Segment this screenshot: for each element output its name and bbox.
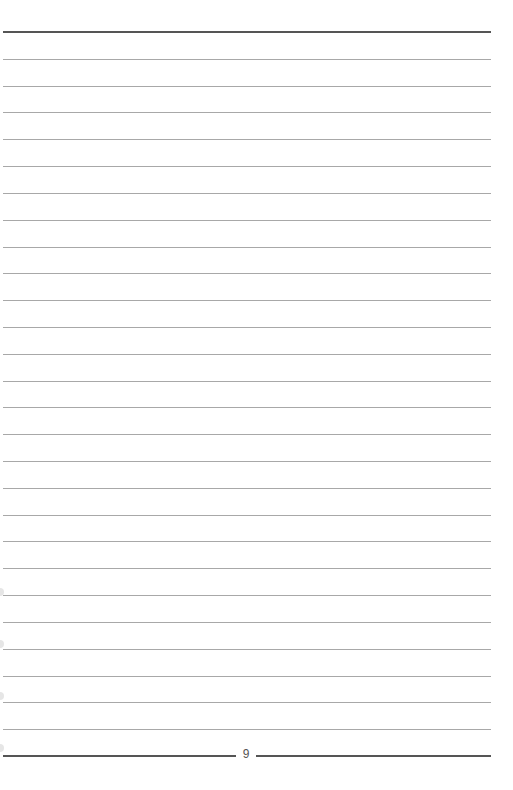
ruled-line — [3, 300, 491, 301]
ruled-line — [3, 622, 491, 623]
ruled-line — [3, 59, 491, 60]
ruled-line — [3, 193, 491, 194]
ruled-line — [3, 273, 491, 274]
ruled-line — [3, 488, 491, 489]
ruled-line — [3, 381, 491, 382]
ruled-line — [3, 112, 491, 113]
ruled-line — [3, 139, 491, 140]
ruled-line — [3, 166, 491, 167]
ruled-line — [3, 676, 491, 677]
ruled-line — [3, 86, 491, 87]
notebook-page: 9 — [0, 0, 513, 790]
binding-hole-shadow — [0, 744, 4, 752]
binding-hole-shadow — [0, 640, 4, 648]
ruled-line — [3, 729, 491, 730]
ruled-line — [3, 434, 491, 435]
ruled-line — [3, 220, 491, 221]
ruled-line — [3, 407, 491, 408]
binding-hole-shadow — [0, 692, 4, 700]
ruled-line — [3, 649, 491, 650]
ruled-line — [3, 247, 491, 248]
ruled-line — [3, 515, 491, 516]
ruled-line — [3, 568, 491, 569]
ruled-line — [3, 461, 491, 462]
ruled-line — [3, 327, 491, 328]
top-border-rule — [3, 31, 491, 33]
ruled-line — [3, 702, 491, 703]
ruled-line — [3, 354, 491, 355]
ruled-line — [3, 541, 491, 542]
page-number: 9 — [236, 747, 256, 761]
ruled-line — [3, 595, 491, 596]
